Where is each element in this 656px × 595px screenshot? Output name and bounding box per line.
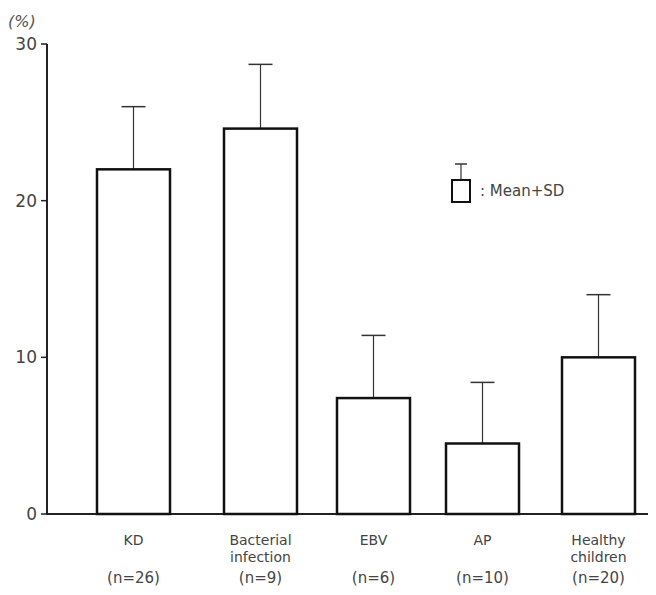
sample-size-label: (n=6) (352, 569, 395, 587)
bar-group (97, 107, 170, 514)
y-tick-label: 10 (15, 347, 37, 367)
bars (97, 64, 635, 514)
y-axis-ticks: 0102030 (15, 34, 47, 524)
sample-size-label: (n=10) (456, 569, 509, 587)
bar (97, 169, 170, 514)
y-tick-label: 0 (26, 504, 37, 524)
x-category-label: AP (473, 532, 491, 548)
x-axis-labels: KD(n=26)Bacterialinfection(n=9)EBV(n=6)A… (107, 532, 627, 587)
sample-size-label: (n=26) (107, 569, 160, 587)
bar-group (337, 335, 410, 514)
x-category-label: children (570, 549, 626, 565)
x-category-label: Bacterial (229, 532, 291, 548)
y-tick-label: 20 (15, 191, 37, 211)
y-tick-label: 30 (15, 34, 37, 54)
bar (446, 444, 519, 515)
bar (224, 129, 297, 514)
x-category-label: infection (230, 549, 291, 565)
bar-group (562, 295, 635, 514)
legend-bar-icon (452, 180, 470, 202)
bar (337, 398, 410, 514)
sample-size-label: (n=9) (239, 569, 282, 587)
sample-size-label: (n=20) (572, 569, 625, 587)
legend-label: : Mean+SD (480, 182, 564, 200)
legend: : Mean+SD (452, 164, 564, 202)
bar-group (224, 64, 297, 514)
bar-chart: (%) 0102030 KD(n=26)Bacterialinfection(n… (0, 0, 656, 595)
x-category-label: EBV (360, 532, 388, 548)
bar-group (446, 382, 519, 514)
bar (562, 357, 635, 514)
y-axis-unit-label: (%) (8, 12, 36, 31)
x-category-label: KD (124, 532, 144, 548)
x-category-label: Healthy (571, 532, 625, 548)
